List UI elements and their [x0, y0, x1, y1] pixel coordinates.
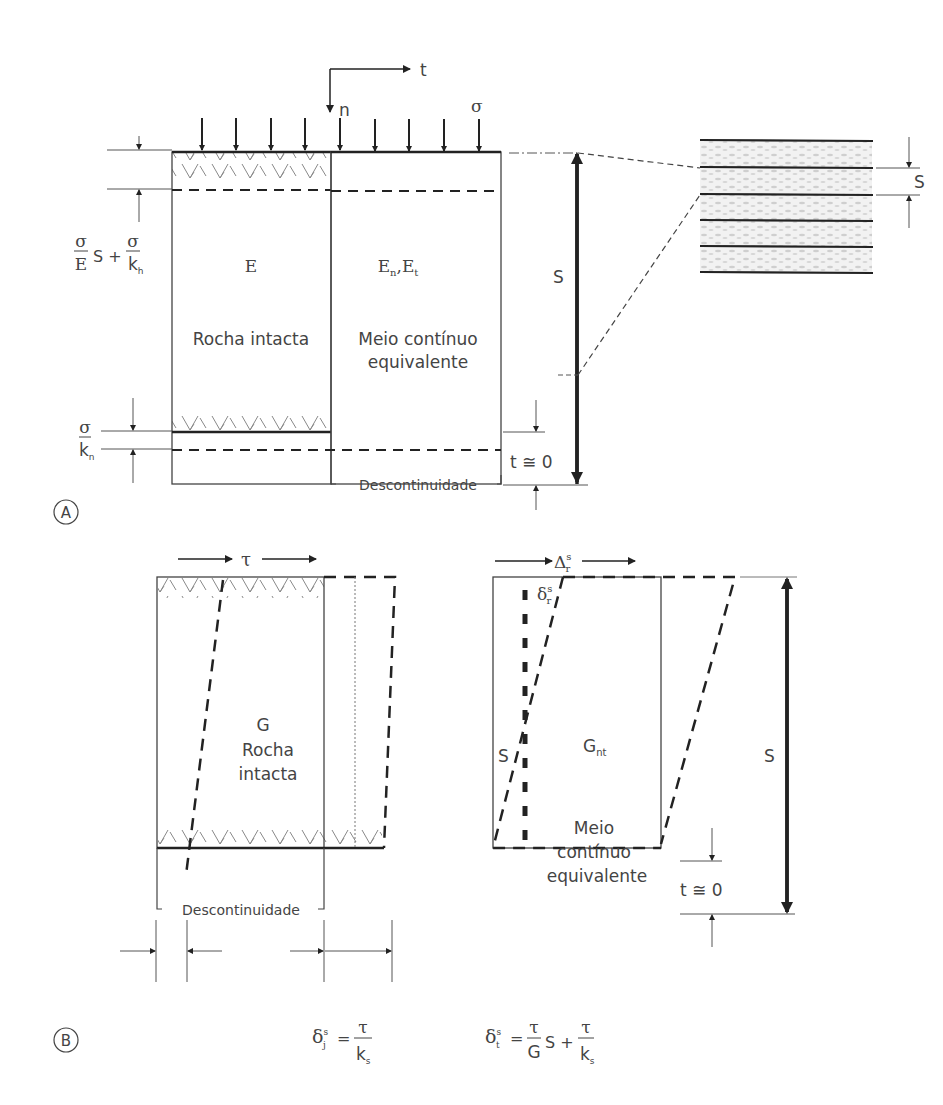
equivalent-continuum-shear-block: Δsr δsr S Gnt Meio contínuo equivalente: [493, 551, 735, 886]
intact-rock-label: Rocha intacta: [193, 329, 309, 349]
zoom-line-top: [578, 153, 700, 168]
delta-r-label: Δsr: [554, 551, 571, 574]
panel-b: τ G Rocha intacta Descontinuidade: [54, 549, 797, 1066]
panel-b-marker-label: B: [61, 1032, 71, 1050]
modulus-g: G: [256, 715, 269, 735]
s-inner-label: S: [498, 746, 509, 766]
svg-text:δst: δst: [485, 1025, 501, 1050]
panel-a: t n σ E Rocha intacta: [54, 60, 925, 524]
svg-text:τ: τ: [529, 1017, 538, 1037]
intact-rock-block: E Rocha intacta: [172, 152, 331, 484]
spacing-arrow-a: [509, 153, 578, 484]
equivalent-continuum-label-2: equivalente: [368, 352, 468, 372]
spacing-label-a: S: [553, 267, 564, 287]
zoom-line-bottom: [578, 195, 700, 375]
svg-text:ks: ks: [580, 1044, 595, 1066]
axis-t-label: t: [420, 60, 427, 80]
discontinuity-label-b: Descontinuidade: [182, 902, 300, 918]
delta-r-inner-label: δsr: [537, 583, 552, 606]
equivalente-label: equivalente: [547, 866, 647, 886]
discontinuity-label-a: Descontinuidade: [359, 477, 477, 493]
shear-stress-label: τ: [241, 549, 251, 570]
svg-text:S +: S +: [545, 1033, 574, 1052]
equivalent-continuum-block: En,Et Meio contínuo equivalente: [172, 152, 501, 484]
svg-text:τ: τ: [358, 1017, 367, 1037]
equation-bottom-left: σ kn: [79, 417, 95, 462]
rocha-label: Rocha: [242, 740, 294, 760]
svg-text:τ: τ: [581, 1017, 590, 1037]
nt-axes: t n σ: [330, 60, 483, 120]
equation-joint-shear: δsj = τ ks: [312, 1017, 372, 1066]
svg-text:S +: S +: [93, 247, 122, 266]
t-approx-zero-a: t ≅ 0: [510, 452, 553, 472]
modulus-gnt: Gnt: [583, 736, 607, 758]
svg-text:=: =: [337, 1029, 350, 1048]
svg-text:σ: σ: [75, 231, 87, 251]
svg-text:kn: kn: [79, 440, 95, 462]
equivalent-continuum-label-1: Meio contínuo: [358, 329, 478, 349]
intact-rock-shear-block: τ G Rocha intacta Descontinuidade: [157, 549, 395, 918]
continuo-label: contínuo: [557, 842, 631, 862]
detail-spacing-label: S: [914, 172, 925, 192]
equation-top-left: σ E S + σ kh: [74, 231, 144, 276]
axis-n-label: n: [339, 100, 350, 120]
spacing-label-b: S: [764, 746, 775, 766]
svg-text:δsj: δsj: [312, 1025, 328, 1050]
svg-text:=: =: [510, 1029, 523, 1048]
modulus-en-et: En,Et: [378, 256, 419, 278]
intacta-label: intacta: [238, 764, 297, 784]
rock-mass-diagram: t n σ E Rocha intacta: [0, 0, 943, 1105]
svg-text:kh: kh: [128, 254, 144, 276]
dimension-bottom-left: [101, 398, 172, 483]
spacing-arrow-b: [740, 577, 797, 912]
layered-rock-detail: S: [700, 137, 925, 273]
panel-a-marker-label: A: [61, 504, 72, 522]
svg-text:ks: ks: [356, 1044, 371, 1066]
modulus-e: E: [245, 256, 257, 276]
normal-load-arrows: [202, 118, 479, 151]
dimension-top-left: [107, 136, 172, 222]
svg-text:G: G: [527, 1042, 540, 1062]
meio-label: Meio: [574, 818, 614, 838]
displacement-dimensions-left: [120, 920, 392, 982]
svg-text:σ: σ: [127, 231, 139, 251]
sigma-label: σ: [471, 96, 483, 116]
svg-text:E: E: [75, 254, 87, 274]
equation-total-shear: δst = τ G S + τ ks: [485, 1017, 595, 1066]
svg-text:σ: σ: [79, 417, 91, 437]
t-approx-zero-b: t ≅ 0: [680, 880, 723, 900]
